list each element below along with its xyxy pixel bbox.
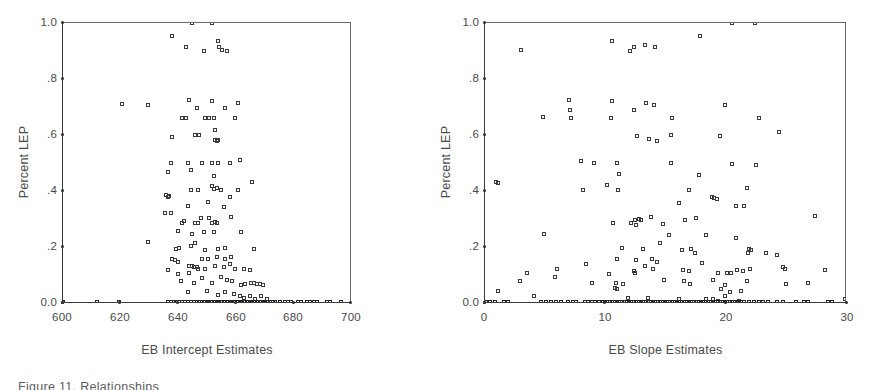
data-point — [670, 116, 674, 120]
panel-eb-slope: 1.0 .8 .6 .4 .2 0.0 0 10 20 30 Percent L… — [435, 0, 870, 386]
data-point — [643, 43, 647, 47]
data-point — [610, 99, 614, 103]
data-point — [628, 49, 632, 53]
data-point — [607, 272, 611, 276]
x-axis-line-left — [62, 302, 352, 303]
data-point — [238, 158, 242, 162]
data-point — [187, 271, 191, 275]
x-tick-label: 10 — [598, 311, 611, 323]
y-axis-line-right — [484, 22, 485, 304]
y-tick-dot — [61, 189, 64, 192]
data-point — [620, 246, 624, 250]
data-point — [120, 102, 124, 106]
data-point — [229, 255, 233, 259]
data-point — [222, 265, 226, 269]
data-point — [633, 271, 637, 275]
data-point — [632, 108, 636, 112]
y-tick-label: .8 — [24, 72, 57, 84]
data-point — [176, 272, 180, 276]
data-point — [200, 161, 204, 165]
data-point — [579, 159, 583, 163]
data-point — [216, 39, 220, 43]
data-point — [715, 197, 719, 201]
data-point — [697, 173, 701, 177]
data-point — [568, 108, 572, 112]
data-point — [634, 223, 638, 227]
data-point — [196, 188, 200, 192]
data-point — [496, 289, 500, 293]
data-point — [649, 215, 653, 219]
data-point — [163, 211, 167, 215]
x-tick-dot — [603, 301, 606, 304]
data-point — [617, 172, 621, 176]
data-point — [734, 204, 738, 208]
data-point — [190, 232, 194, 236]
x-tick-dot — [845, 301, 848, 304]
data-point — [746, 251, 750, 255]
data-point — [610, 39, 614, 43]
data-point — [725, 271, 729, 275]
data-point — [754, 163, 758, 167]
data-point — [718, 134, 722, 138]
x-tick-dot — [176, 301, 179, 304]
data-point — [592, 161, 596, 165]
data-point — [228, 262, 232, 266]
data-point — [182, 219, 186, 223]
data-point — [525, 271, 529, 275]
data-point — [216, 247, 220, 251]
figure-caption: Figure 11. Relationships — [18, 380, 159, 390]
data-point — [553, 275, 557, 279]
y-tick-dot — [61, 21, 64, 24]
data-point — [784, 282, 788, 286]
data-point — [823, 268, 827, 272]
data-point — [250, 180, 254, 184]
data-point — [730, 23, 734, 25]
data-point — [212, 174, 216, 178]
data-point — [719, 287, 723, 291]
y-tick-label: .8 — [446, 72, 479, 84]
data-point — [189, 168, 193, 172]
data-point — [195, 106, 199, 110]
data-point — [647, 137, 651, 141]
data-point — [243, 282, 247, 286]
data-point — [210, 99, 214, 103]
data-point — [223, 290, 227, 294]
y-tick-label: 0.0 — [24, 296, 57, 308]
data-point — [730, 162, 734, 166]
data-point — [223, 257, 227, 261]
x-tick-label: 30 — [840, 311, 853, 323]
y-tick-dot — [483, 245, 486, 248]
data-point — [219, 188, 223, 192]
y-tick-dot — [483, 77, 486, 80]
data-point — [757, 116, 761, 120]
y-tick-dot — [483, 189, 486, 192]
data-point — [259, 294, 263, 298]
data-point — [739, 289, 743, 293]
data-point — [682, 279, 686, 283]
data-point — [742, 204, 746, 208]
data-point — [723, 283, 727, 287]
data-point — [210, 161, 214, 165]
x-tick-dot — [349, 301, 352, 304]
data-point — [681, 268, 685, 272]
data-point — [261, 283, 265, 287]
data-point — [611, 221, 615, 225]
data-point — [542, 232, 546, 236]
data-point — [248, 294, 252, 298]
data-point — [764, 251, 768, 255]
x-axis-line-right — [484, 302, 847, 303]
data-point — [729, 271, 733, 275]
x-tick-label: 620 — [110, 311, 130, 323]
data-point — [777, 130, 781, 134]
data-point — [210, 23, 214, 25]
data-point — [200, 257, 204, 261]
data-point — [215, 255, 219, 259]
plot-frame-left — [62, 22, 351, 303]
y-tick-dot — [61, 77, 64, 80]
data-point — [669, 161, 673, 165]
data-point — [653, 45, 657, 49]
data-point — [541, 115, 545, 119]
data-point — [225, 49, 229, 53]
data-point — [615, 257, 619, 261]
